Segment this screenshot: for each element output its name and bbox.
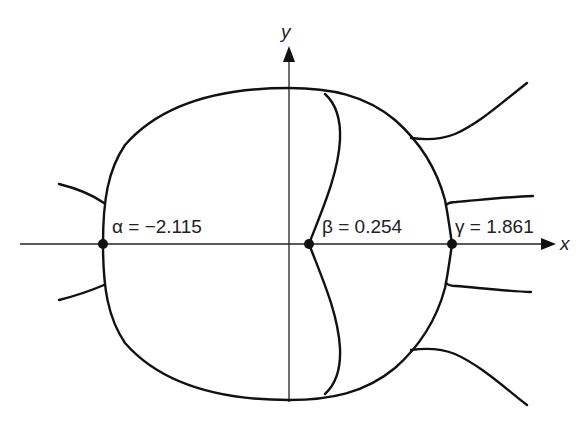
branch-left-upper bbox=[59, 184, 104, 203]
axes: x y bbox=[20, 21, 571, 402]
x-axis-arrow-icon bbox=[541, 238, 556, 250]
beta-label: β = 0.254 bbox=[322, 216, 403, 237]
alpha-point bbox=[98, 239, 108, 249]
beta-point bbox=[304, 239, 314, 249]
branch-upper-right-b bbox=[446, 196, 533, 205]
alpha-label: α = −2.115 bbox=[112, 216, 202, 237]
branch-lower-right-a bbox=[446, 283, 531, 292]
inner-locus-lower bbox=[309, 244, 340, 394]
y-axis-label: y bbox=[279, 21, 292, 42]
x-axis-label: x bbox=[559, 233, 571, 254]
root-locus-diagram: x y α = −2.115 β = 0.254 γ = 1.861 bbox=[0, 0, 588, 446]
branch-upper-right-a bbox=[411, 83, 527, 139]
gamma-label: γ = 1.861 bbox=[455, 216, 534, 237]
gamma-point bbox=[447, 239, 457, 249]
outer-locus-lower bbox=[103, 244, 452, 400]
y-axis-arrow-icon bbox=[283, 46, 295, 62]
branch-lower-right-b bbox=[411, 349, 527, 405]
branch-left-lower bbox=[59, 285, 104, 300]
